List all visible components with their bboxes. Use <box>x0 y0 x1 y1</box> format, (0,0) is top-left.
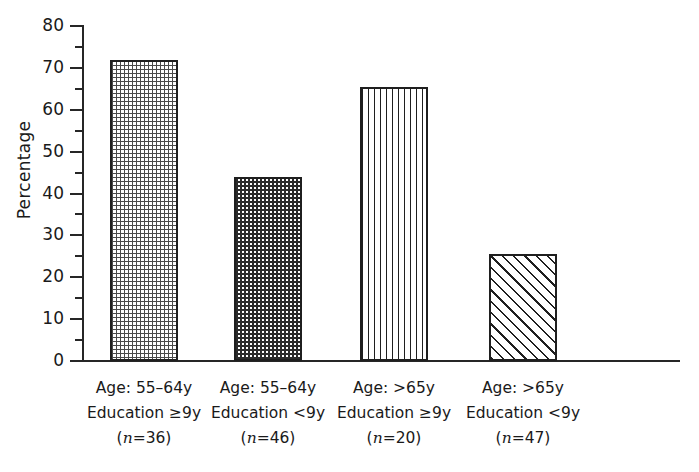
y-tick-label: 30 <box>4 226 64 243</box>
y-tick-minor <box>75 88 83 90</box>
y-tick-minor <box>75 213 83 215</box>
y-tick-minor <box>75 297 83 299</box>
y-tick-label: 70 <box>4 59 64 76</box>
y-tick-major <box>70 25 83 27</box>
y-tick-major <box>70 109 83 111</box>
y-tick-minor <box>75 46 83 48</box>
y-tick-major <box>70 234 83 236</box>
bar <box>360 87 428 361</box>
y-tick-major <box>70 276 83 278</box>
y-tick-minor <box>75 255 83 257</box>
category-education-line: Education <9y <box>423 401 623 426</box>
x-category-label: Age: >65yEducation <9y(n=47) <box>423 376 623 451</box>
y-tick-major <box>70 193 83 195</box>
category-age-line: Age: >65y <box>423 376 623 401</box>
y-tick-major <box>70 151 83 153</box>
y-tick-label: 60 <box>4 101 64 118</box>
bar <box>110 60 178 362</box>
y-tick-label: 0 <box>4 352 64 369</box>
y-tick-label: 80 <box>4 17 64 34</box>
bar <box>489 254 557 361</box>
y-tick-minor <box>75 130 83 132</box>
y-tick-label: 50 <box>4 143 64 160</box>
y-tick-minor <box>75 339 83 341</box>
bar-chart: Percentage 01020304050607080 Age: 55–64y… <box>0 0 699 472</box>
y-tick-label: 40 <box>4 185 64 202</box>
y-tick-major <box>70 67 83 69</box>
category-sample-size-line: (n=47) <box>423 426 623 451</box>
y-tick-major <box>70 318 83 320</box>
y-tick-major <box>70 360 83 362</box>
y-tick-minor <box>75 172 83 174</box>
bar <box>234 177 302 361</box>
y-tick-label: 10 <box>4 310 64 327</box>
y-tick-label: 20 <box>4 268 64 285</box>
